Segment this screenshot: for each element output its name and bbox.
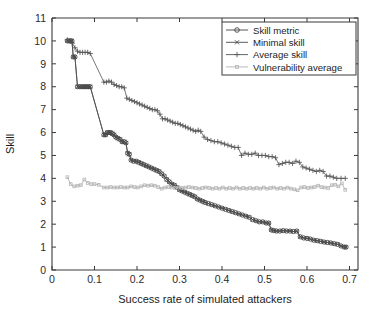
y-tick-label: 0 — [40, 264, 46, 276]
chart-legend: Skill metricMinimal skillAverage skillVu… — [222, 22, 356, 75]
x-tick-label: 0.3 — [172, 273, 187, 285]
y-tick-label: 10 — [34, 35, 46, 47]
x-tick-label: 0.1 — [87, 273, 102, 285]
legend-label: Skill metric — [253, 25, 300, 36]
x-tick-label: 0 — [49, 273, 55, 285]
legend-label: Average skill — [253, 49, 307, 60]
chart-figure: 00.10.20.30.40.50.60.7 01234567891011 Su… — [0, 0, 378, 311]
x-axis-title: Success rate of simulated attackers — [118, 293, 292, 305]
y-tick-label: 11 — [35, 12, 46, 24]
x-tick-label: 0.5 — [257, 273, 272, 285]
y-tick-label: 3 — [40, 195, 46, 207]
y-tick-label: 9 — [40, 58, 46, 70]
y-tick-label: 7 — [40, 103, 46, 115]
y-tick-label: 4 — [40, 172, 46, 184]
x-tick-label: 0.6 — [300, 273, 315, 285]
x-tick-label: 0.4 — [215, 273, 230, 285]
y-tick-label: 6 — [40, 126, 46, 138]
y-tick-label: 2 — [40, 218, 46, 230]
x-tick-label: 0.2 — [130, 273, 145, 285]
legend-label: Minimal skill — [253, 37, 305, 48]
legend-label: Vulnerability average — [253, 62, 342, 73]
chart-canvas: 00.10.20.30.40.50.60.7 01234567891011 Su… — [0, 0, 378, 311]
y-tick-label: 5 — [40, 149, 46, 161]
y-tick-label: 1 — [40, 241, 46, 253]
y-axis-title: Skill — [4, 134, 16, 154]
y-tick-label: 8 — [40, 80, 46, 92]
x-tick-label: 0.7 — [342, 273, 357, 285]
